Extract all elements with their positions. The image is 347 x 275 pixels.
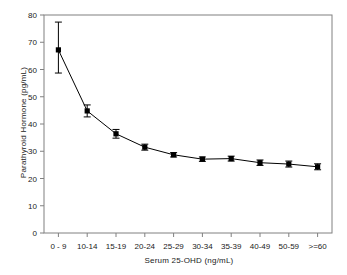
y-tick-label: 10 [28, 202, 37, 211]
x-tick-label: 40-49 [250, 242, 271, 251]
x-tick-label: 25-29 [163, 242, 184, 251]
chart-container: Parathyroid Hormone (pg/mL) Serum 25-OHD… [0, 0, 347, 275]
data-point-marker [142, 145, 147, 150]
x-tick-label: 20-24 [135, 242, 156, 251]
x-tick-label: 50-59 [279, 242, 300, 251]
data-line [58, 50, 317, 167]
y-tick-label: 80 [28, 11, 37, 20]
data-point-marker [200, 157, 205, 162]
y-tick-label: 70 [28, 38, 37, 47]
x-tick-label: 10-14 [77, 242, 98, 251]
plot-frame [44, 15, 332, 233]
plot-area: 010203040506070800 - 910-1415-1920-2425-… [0, 0, 347, 275]
x-tick-label: 0 - 9 [50, 242, 67, 251]
x-tick-label: >=60 [308, 242, 327, 251]
x-tick-label: 30-34 [192, 242, 213, 251]
data-point-marker [56, 47, 61, 52]
y-tick-label: 0 [33, 229, 38, 238]
data-point-marker [113, 131, 118, 136]
x-tick-label: 15-19 [106, 242, 127, 251]
data-point-marker [229, 156, 234, 161]
data-point-marker [171, 152, 176, 157]
y-tick-label: 30 [28, 147, 37, 156]
y-tick-label: 60 [28, 66, 37, 75]
y-tick-label: 20 [28, 175, 37, 184]
data-point-marker [85, 108, 90, 113]
data-point-marker [257, 160, 262, 165]
data-point-marker [286, 161, 291, 166]
data-point-marker [315, 164, 320, 169]
y-tick-label: 40 [28, 120, 37, 129]
x-tick-label: 35-39 [221, 242, 242, 251]
y-tick-label: 50 [28, 93, 37, 102]
